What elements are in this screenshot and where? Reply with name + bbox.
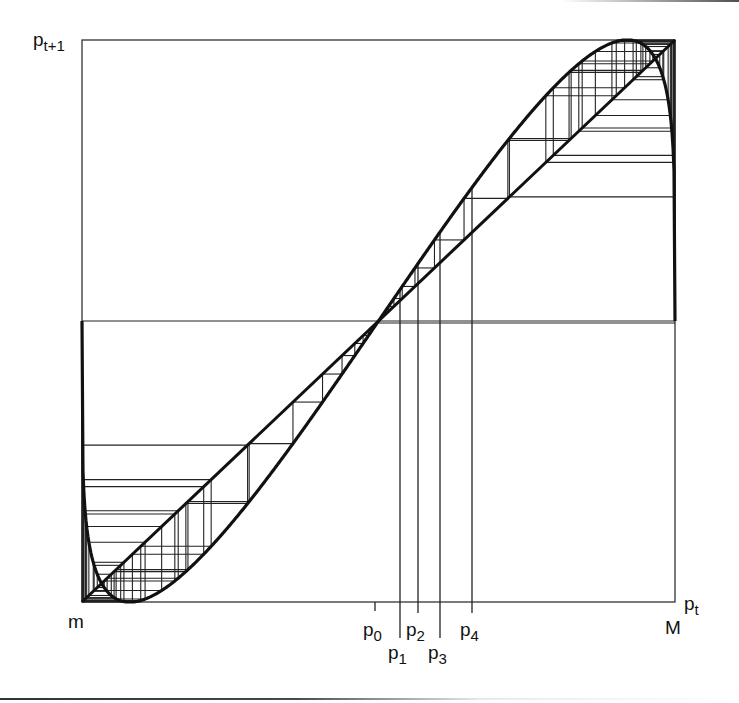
y-axis-label-sub: t+1 [44,37,65,54]
y-axis-label-base: p [33,29,44,50]
x-axis-label: pt [684,594,699,613]
iterate-label-p0: p0 [363,620,382,639]
iterate-label-p3: p3 [428,643,447,662]
x-max-label: M [665,618,681,637]
iterate-guide-lines [375,188,675,638]
y-axis-label: pt+1 [33,30,65,49]
cobweb-plot [0,0,739,703]
x-axis-label-base: p [684,593,695,614]
iterate-label-p1: p1 [388,643,407,662]
x-axis-label-sub: t [695,601,699,618]
x-min-label: m [68,612,84,631]
iterate-label-p2: p2 [406,620,425,639]
iterate-label-p4: p4 [460,620,479,639]
